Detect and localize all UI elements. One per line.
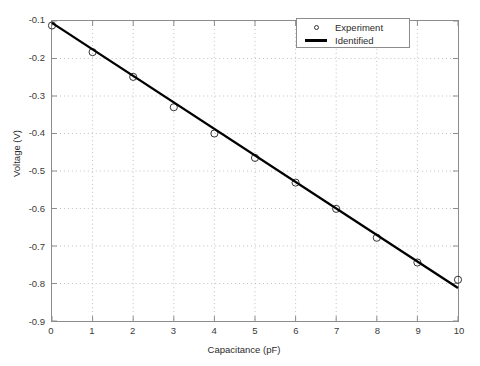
y-tick-label: -0.4 <box>0 128 45 138</box>
legend-entry-experiment: Experiment <box>297 21 409 34</box>
chart-legend: Experiment Identified <box>296 18 410 48</box>
x-tick-label: 8 <box>375 326 380 336</box>
y-tick-label: -0.1 <box>0 15 45 25</box>
x-tick-label: 10 <box>454 326 465 336</box>
x-tick-label: 9 <box>416 326 421 336</box>
y-tick-label: -0.5 <box>0 166 45 176</box>
x-tick-label: 0 <box>48 326 53 336</box>
y-tick-label: -0.2 <box>0 53 45 63</box>
legend-label-identified: Identified <box>335 35 374 46</box>
y-axis-title: Voltage (V) <box>11 114 22 194</box>
x-axis-title: Capacitance (pF) <box>0 344 480 355</box>
y-tick-label: -0.9 <box>0 317 45 327</box>
figure-canvas: -0.9-0.8-0.7-0.6-0.5-0.4-0.3-0.2-0.1 012… <box>0 0 480 366</box>
series-layer <box>52 21 458 321</box>
y-tick-label: -0.7 <box>0 242 45 252</box>
x-axis-title-text: Capacitance (pF) <box>208 344 281 355</box>
plot-area <box>51 20 459 322</box>
line-marker-icon <box>297 39 335 41</box>
y-tick-label: -0.6 <box>0 204 45 214</box>
y-tick-label: -0.8 <box>0 279 45 289</box>
data-point-marker <box>454 276 461 283</box>
legend-label-experiment: Experiment <box>335 22 383 33</box>
x-tick-label: 6 <box>293 326 298 336</box>
x-tick-label: 2 <box>130 326 135 336</box>
y-axis-title-text: Voltage (V) <box>11 130 22 177</box>
x-tick-label: 4 <box>212 326 217 336</box>
y-tick-label: -0.3 <box>0 91 45 101</box>
x-tick-label: 3 <box>171 326 176 336</box>
circle-marker-icon <box>297 25 335 30</box>
line-series-identified <box>52 23 458 288</box>
x-tick-label: 7 <box>334 326 339 336</box>
legend-entry-identified: Identified <box>297 34 409 47</box>
x-tick-label: 1 <box>89 326 94 336</box>
x-tick-label: 5 <box>252 326 257 336</box>
